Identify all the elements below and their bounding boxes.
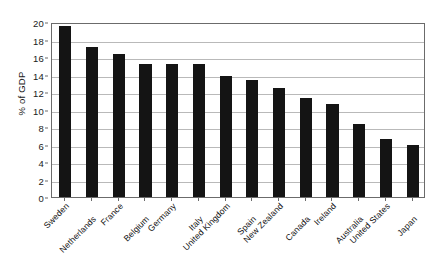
bar [220,76,232,197]
bar [166,64,178,197]
bar [380,139,392,197]
bar [246,80,258,197]
x-axis-tick-mark [91,198,92,201]
bar [193,64,205,197]
x-axis-category: Belgium [131,198,158,276]
bar [300,98,312,197]
y-axis-tick-mark [45,110,48,111]
y-axis-tick-label: 18 [33,35,44,46]
y-axis-tick-mark [45,128,48,129]
y-axis-tick-mark [45,40,48,41]
x-axis-tick-label: Sweden [42,201,71,230]
x-axis-category: Canada [291,198,318,276]
x-axis: SwedenNetherlandsFranceBelgiumGermanyIta… [51,198,425,276]
bar [407,145,419,198]
y-axis-tick-mark [45,93,48,94]
y-axis-tick-label: 20 [33,18,44,29]
bars-layer [52,24,424,197]
y-axis-tick-label: 4 [39,158,44,169]
bar [273,88,285,197]
y-axis-tick-mark [45,163,48,164]
x-axis-tick-mark [331,198,332,201]
x-axis-category: Japan [398,198,425,276]
x-axis-tick-mark [305,198,306,201]
y-axis-tick-mark [45,75,48,76]
y-axis-tick-mark [45,145,48,146]
x-axis-category: Germany [158,198,185,276]
x-axis-tick-mark [358,198,359,201]
y-axis-tick-label: 8 [39,123,44,134]
x-axis-tick-mark [251,198,252,201]
y-axis-tick-label: 10 [33,105,44,116]
x-axis-tick-mark [198,198,199,201]
x-axis-category: United Kingdom [211,198,238,276]
y-axis-tick-mark [45,198,48,199]
y-axis-tick-label: 6 [39,140,44,151]
bar [139,64,151,197]
y-axis-tick-mark [45,58,48,59]
y-axis-tick-mark [45,23,48,24]
bar-chart: % of GDP 02468101214161820 SwedenNetherl… [0,0,446,276]
y-axis-tick-mark [45,180,48,181]
x-axis-tick-mark [144,198,145,201]
y-axis-tick-label: 14 [33,70,44,81]
x-axis-category: United States [372,198,399,276]
y-axis: 02468101214161820 [0,23,48,198]
x-axis-tick-mark [412,198,413,201]
y-axis-tick-label: 0 [39,193,44,204]
bar [59,26,71,197]
bar [113,54,125,197]
plot-area [51,23,425,198]
y-axis-tick-label: 16 [33,53,44,64]
y-axis-tick-label: 2 [39,175,44,186]
x-axis-tick-label: Japan [395,214,419,238]
bar [353,124,365,198]
y-axis-tick-label: 12 [33,88,44,99]
bar [326,104,338,197]
bar [86,47,98,198]
x-axis-category: Netherlands [78,198,105,276]
